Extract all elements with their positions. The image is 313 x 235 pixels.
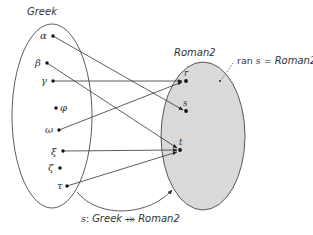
label-xi: ξ: [51, 146, 57, 157]
arrow-tau-to-t: [67, 152, 177, 186]
diagram-svg: Greek Roman2 α β γ φ ω: [0, 0, 313, 235]
point-s: [184, 109, 188, 113]
label-zeta: ζ: [48, 162, 54, 173]
point-alpha: [51, 34, 54, 37]
point-beta: [45, 61, 48, 64]
function-caption: s: Greek ⤀ Roman2: [81, 213, 180, 224]
point-phi: [54, 106, 57, 109]
point-tau: [65, 184, 68, 187]
point-xi: [61, 149, 64, 152]
label-s: s: [183, 98, 188, 108]
point-t: [178, 148, 182, 152]
arrow-alpha-to-s: [53, 36, 183, 110]
range-pointer-dot: [219, 80, 221, 82]
label-t: t: [179, 137, 183, 147]
roman2-set-title: Roman2: [174, 47, 216, 58]
label-beta: β: [34, 57, 41, 68]
label-omega: ω: [45, 124, 53, 135]
function-diagram: Greek Roman2 α β γ φ ω: [0, 0, 313, 235]
greek-set-title: Greek: [27, 6, 58, 17]
roman2-set-ellipse: [161, 62, 245, 210]
point-r: [184, 79, 188, 83]
mapping-arrows: [47, 36, 183, 186]
point-omega: [57, 128, 60, 131]
arrow-xi-to-t: [63, 150, 177, 151]
function-curve-arrow: [77, 190, 172, 211]
point-zeta: [58, 166, 61, 169]
label-gamma: γ: [41, 75, 47, 86]
range-annotation: ran s = Roman2: [237, 55, 313, 66]
label-phi: φ: [60, 102, 67, 113]
label-alpha: α: [40, 30, 47, 41]
label-tau: τ: [57, 180, 63, 191]
point-gamma: [51, 79, 54, 82]
